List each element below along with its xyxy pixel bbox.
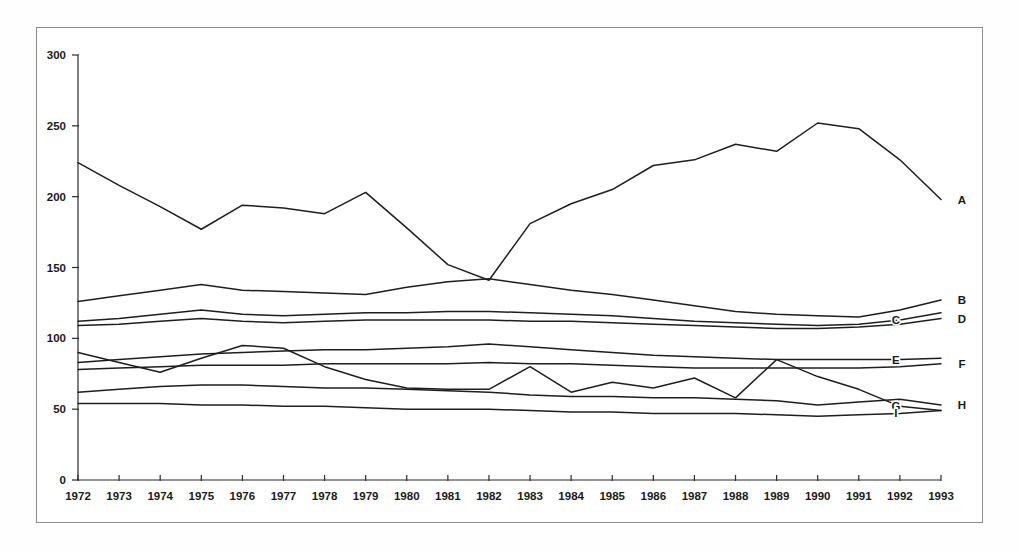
series-label-e: E (892, 354, 900, 366)
x-tick-label: 1978 (312, 490, 338, 502)
series-label-b: B (958, 294, 966, 306)
x-tick-label: 1987 (682, 490, 708, 502)
series-label-i: I (894, 407, 897, 419)
x-tick-label: 1974 (147, 490, 173, 502)
series-line-f (78, 362, 941, 369)
x-tick-label: 1989 (764, 490, 790, 502)
x-tick-label: 1984 (558, 490, 584, 502)
series-line-c (78, 310, 941, 326)
series-label-f: F (958, 358, 965, 370)
series-label-c: C (892, 314, 900, 326)
x-tick-label: 1975 (188, 490, 214, 502)
series-line-e (78, 344, 941, 362)
x-axis-tick-labels: 1972197319741975197619771978197919801981… (65, 490, 954, 502)
y-tick-label: 150 (47, 262, 66, 274)
y-axis-tick-labels: 050100150200250300 (47, 49, 66, 486)
y-tick-label: 100 (47, 332, 66, 344)
x-tick-label: 1990 (805, 490, 831, 502)
x-tick-label: 1972 (65, 490, 91, 502)
x-tick-label: 1982 (476, 490, 502, 502)
series-lines (78, 123, 941, 416)
series-line-d (78, 319, 941, 329)
x-tick-label: 1981 (435, 490, 461, 502)
x-tick-label: 1973 (106, 490, 132, 502)
y-tick-label: 250 (47, 120, 66, 132)
y-tick-label: 300 (47, 49, 66, 61)
series-label-d: D (958, 313, 966, 325)
series-line-i (78, 404, 941, 417)
series-labels: ABCDEFGHI (891, 194, 966, 420)
line-chart: 050100150200250300 197219731974197519761… (0, 0, 1018, 551)
x-tick-label: 1993 (928, 490, 954, 502)
y-tick-label: 200 (47, 191, 66, 203)
x-tick-label: 1980 (394, 490, 420, 502)
series-line-a (78, 123, 941, 280)
x-tick-label: 1985 (599, 490, 625, 502)
y-tick-label: 50 (53, 403, 66, 415)
x-tick-label: 1983 (517, 490, 543, 502)
x-tick-label: 1979 (353, 490, 379, 502)
series-label-h: H (958, 399, 966, 411)
y-tick-label: 0 (60, 474, 66, 486)
x-tick-label: 1976 (230, 490, 256, 502)
x-tick-label: 1992 (887, 490, 913, 502)
series-line-g (78, 345, 941, 410)
x-tick-label: 1991 (846, 490, 872, 502)
x-tick-label: 1988 (723, 490, 749, 502)
series-line-h (78, 385, 941, 405)
series-label-a: A (958, 194, 966, 206)
figure-canvas: 050100150200250300 197219731974197519761… (0, 0, 1018, 551)
x-tick-label: 1977 (271, 490, 297, 502)
x-tick-label: 1986 (641, 490, 667, 502)
